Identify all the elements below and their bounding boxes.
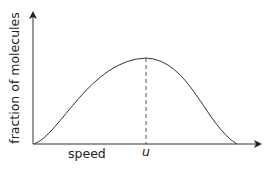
x-axis-label: speed <box>68 146 106 161</box>
distribution-curve <box>34 58 237 144</box>
peak-marker-label: u <box>142 144 150 159</box>
distribution-chart <box>0 0 273 169</box>
y-axis-label: fraction of molecules <box>7 12 22 143</box>
